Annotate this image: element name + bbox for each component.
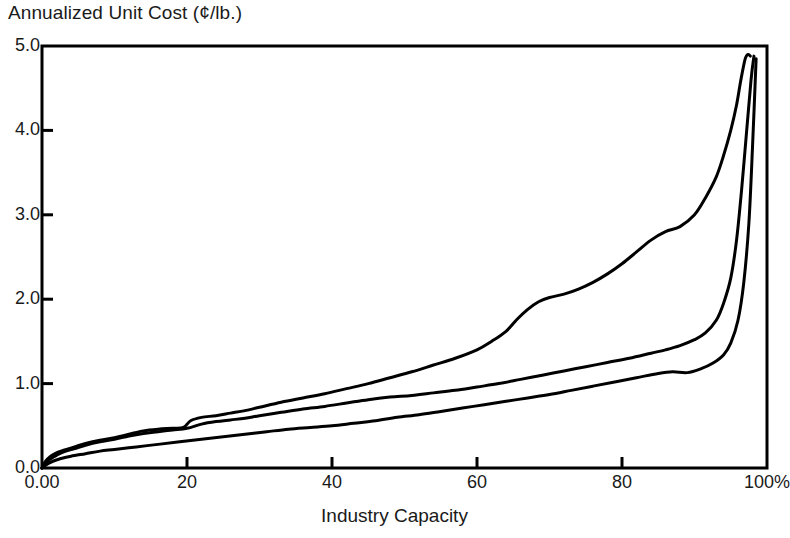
plot-frame	[42, 46, 767, 468]
axis-frame	[42, 46, 767, 468]
y-axis-tick-label: 5.0	[0, 35, 40, 56]
x-axis-tick-label: 40	[322, 472, 342, 493]
x-axis-tick-label: 100%	[744, 472, 790, 493]
y-axis-ticks	[42, 130, 53, 383]
x-axis-tick-label: 0.00	[24, 472, 59, 493]
y-axis-tick-label: 4.0	[0, 119, 40, 140]
series-line-lower-cost-curve	[42, 59, 756, 468]
x-axis-tick-label: 80	[612, 472, 632, 493]
series-line-middle-cost-curve	[42, 56, 754, 468]
y-axis-tick-label: 2.0	[0, 288, 40, 309]
x-axis-title: Industry Capacity	[0, 505, 789, 527]
y-axis-tick-label: 3.0	[0, 204, 40, 225]
x-axis-tick-label: 20	[177, 472, 197, 493]
x-axis-ticks	[187, 457, 622, 468]
data-series-group	[42, 54, 756, 468]
y-axis-tick-label: 1.0	[0, 373, 40, 394]
series-line-upper-cost-curve	[42, 54, 750, 468]
x-axis-tick-label: 60	[467, 472, 487, 493]
